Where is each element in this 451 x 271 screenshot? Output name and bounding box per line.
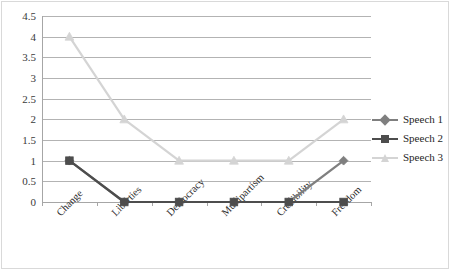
legend-marker — [379, 114, 390, 125]
legend-key-square-icon — [372, 133, 398, 145]
gridline-1-5 — [43, 140, 371, 141]
line-chart: 00.511.522.533.544.5 ChangeLibertiesDemo… — [0, 0, 451, 271]
x-tick-mark — [97, 202, 98, 206]
legend-label: Speech 1 — [403, 114, 443, 125]
legend-item[interactable]: Speech 2 — [372, 129, 448, 148]
legend-item[interactable]: Speech 1 — [372, 110, 448, 129]
legend-label: Speech 3 — [403, 152, 443, 163]
x-tick-mark — [371, 202, 372, 206]
x-tick-mark — [261, 202, 262, 206]
legend-label: Speech 2 — [403, 133, 443, 144]
plot-area — [42, 16, 371, 202]
legend-marker — [381, 154, 389, 162]
gridline-3-5 — [43, 57, 371, 58]
y-tick-label: 0 — [2, 197, 36, 208]
legend-key-diamond-icon — [372, 114, 398, 126]
y-tick-label: 4.5 — [2, 11, 36, 22]
gridline-1 — [43, 161, 371, 162]
y-tick-label: 3 — [2, 73, 36, 84]
gridline-4 — [43, 37, 371, 38]
y-tick-label: 4 — [2, 31, 36, 42]
gridline-4-5 — [43, 16, 371, 17]
x-tick-mark — [207, 202, 208, 206]
y-tick-label: 1 — [2, 155, 36, 166]
y-tick-label: 1.5 — [2, 135, 36, 146]
chart-legend: Speech 1Speech 2Speech 3 — [372, 110, 448, 167]
x-tick-mark — [152, 202, 153, 206]
x-tick-mark — [42, 202, 43, 206]
gridline-0-5 — [43, 181, 371, 182]
gridline-3 — [43, 78, 371, 79]
y-tick-label: 0.5 — [2, 176, 36, 187]
legend-marker — [381, 135, 389, 143]
gridline-2-5 — [43, 99, 371, 100]
x-tick-mark — [316, 202, 317, 206]
y-tick-label: 2 — [2, 114, 36, 125]
legend-item[interactable]: Speech 3 — [372, 148, 448, 167]
y-tick-label: 3.5 — [2, 52, 36, 63]
gridline-2 — [43, 119, 371, 120]
legend-key-triangle-icon — [372, 152, 398, 164]
y-tick-label: 2.5 — [2, 93, 36, 104]
